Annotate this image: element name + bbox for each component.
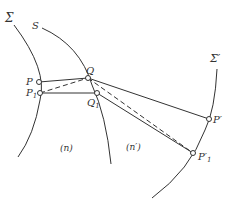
point-pprime-marker [207,117,212,122]
label-medium-n-prime: (n′) [126,142,141,152]
point-p1prime-marker [191,151,196,156]
label-p1: P1 [25,87,37,100]
label-sigma: Σ [4,11,14,25]
ray-q1-p1prime [97,93,193,153]
label-q: Q [86,65,94,76]
label-p-prime: P′ [212,114,223,125]
label-sigma-prime: Σ′ [209,52,221,65]
point-q-marker [86,76,91,81]
label-s: S [32,20,39,31]
label-medium-n: (n) [60,143,73,153]
point-p1-marker [38,91,43,96]
optics-diagram: Σ S Σ′ P P1 Q Q1 P′ P′1 (n) (n′) [0,0,235,208]
surface-s-curve [42,28,111,164]
label-p1-prime: P′1 [197,151,211,164]
point-p-marker [37,80,42,85]
point-q1-marker [95,91,100,96]
label-p: P [25,76,33,87]
diagram-svg: Σ S Σ′ P P1 Q Q1 P′ P′1 (n) (n′) [0,0,235,208]
